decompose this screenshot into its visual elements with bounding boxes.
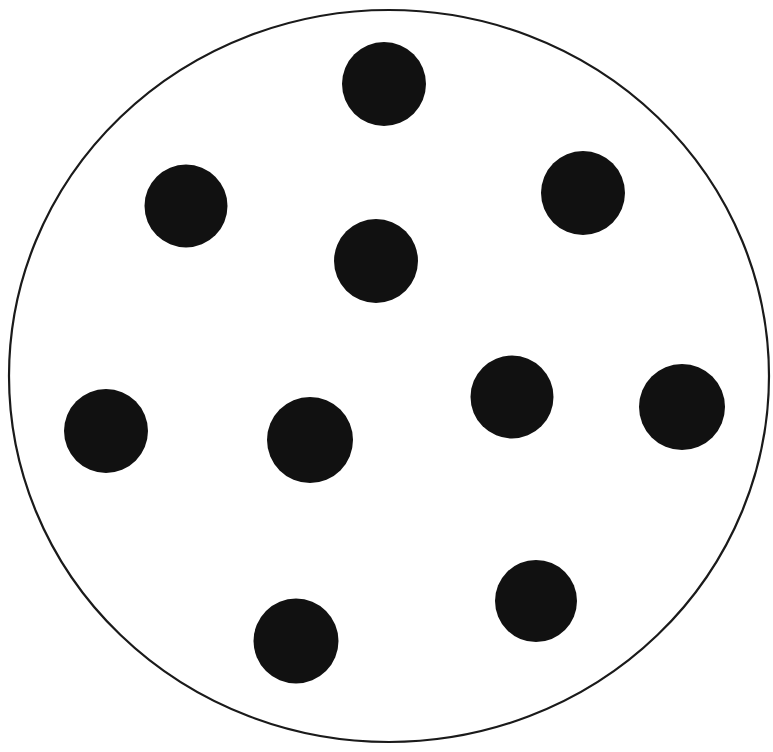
dish-diagram: [0, 0, 773, 752]
colony-dot: [495, 560, 577, 642]
colony-dot: [145, 165, 228, 248]
colony-dot: [342, 42, 426, 126]
colony-dot: [64, 389, 148, 473]
colony-dot: [254, 599, 339, 684]
colony-dot: [334, 219, 418, 303]
colony-dot: [267, 397, 353, 483]
colony-dot: [541, 151, 625, 235]
figure-canvas: [0, 0, 773, 752]
colony-dot: [639, 364, 725, 450]
colony-dot: [471, 356, 554, 439]
